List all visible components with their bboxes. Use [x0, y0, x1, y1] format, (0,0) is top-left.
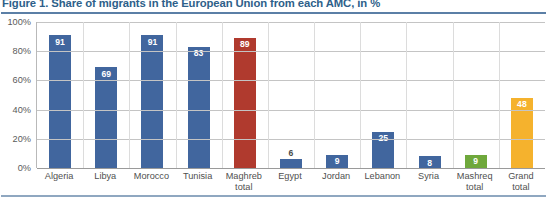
- figure-container: Figure 1. Share of migrants in the Europ…: [0, 0, 547, 197]
- x-axis-tick-label: Mashreqtotal: [452, 171, 498, 193]
- bar-slot: 89: [222, 22, 268, 168]
- bar[interactable]: [188, 47, 210, 168]
- x-axis-labels: AlgeriaLibyaMoroccoTunisiaMaghrebtotalEg…: [36, 171, 544, 197]
- x-axis-tick-label-line: Mashreq: [452, 171, 498, 182]
- y-axis-tick-label: 0%: [18, 163, 31, 173]
- bar-slot: 69: [83, 22, 129, 168]
- y-axis-tick-label: 40%: [13, 105, 31, 115]
- bar-value-label: 91: [148, 38, 158, 47]
- bar-value-label: 48: [517, 100, 527, 109]
- x-axis-tick-label: Jordan: [313, 171, 359, 182]
- figure-title: Figure 1. Share of migrants in the Europ…: [2, 0, 545, 11]
- category-separator: [406, 22, 407, 168]
- bar-series: 916991838969258948: [37, 22, 545, 168]
- x-axis-tick-label: Tunisia: [175, 171, 221, 182]
- x-axis-baseline: [37, 168, 545, 169]
- bar-slot: 48: [499, 22, 545, 168]
- y-axis-tick-label: 100%: [8, 17, 32, 27]
- bar[interactable]: [95, 67, 117, 168]
- category-separator: [222, 22, 223, 168]
- x-axis-tick-label: Egypt: [267, 171, 313, 182]
- bar-slot: 91: [129, 22, 175, 168]
- bar[interactable]: [234, 38, 256, 168]
- x-axis-tick-label: Maghrebtotal: [221, 171, 267, 193]
- title-divider: [1, 12, 546, 14]
- x-axis-tick-label-line: Grand: [498, 171, 544, 182]
- bar-slot: 83: [176, 22, 222, 168]
- bar-value-label: 6: [289, 149, 294, 158]
- footer-divider: [1, 195, 546, 197]
- bar-slot: 9: [453, 22, 499, 168]
- x-axis-tick-label: Syria: [405, 171, 451, 182]
- bar-value-label: 69: [101, 70, 111, 79]
- x-axis-tick-label-line: total: [452, 182, 498, 193]
- gridline: [37, 80, 545, 81]
- y-axis-tick-label: 60%: [13, 75, 31, 85]
- x-axis-tick-label: Morocco: [128, 171, 174, 182]
- x-axis-tick-label-line: Jordan: [313, 171, 359, 182]
- bar[interactable]: [280, 159, 302, 168]
- bar-slot: 25: [360, 22, 406, 168]
- x-axis-tick-label-line: Lebanon: [359, 171, 405, 182]
- bar-value-label: 9: [335, 157, 340, 166]
- bar-slot: 8: [406, 22, 452, 168]
- x-axis-tick-label-line: Syria: [405, 171, 451, 182]
- x-axis-tick-label-line: total: [221, 182, 267, 193]
- gridline: [37, 51, 545, 52]
- y-axis-tick-label: 20%: [13, 134, 31, 144]
- chart-grid: 916991838969258948: [36, 22, 545, 168]
- gridline: [37, 110, 545, 111]
- x-axis-tick-label-line: Tunisia: [175, 171, 221, 182]
- category-separator: [83, 22, 84, 168]
- gridline: [37, 139, 545, 140]
- bar-slot: 9: [314, 22, 360, 168]
- bar-value-label: 91: [55, 38, 65, 47]
- category-separator: [360, 22, 361, 168]
- category-separator: [129, 22, 130, 168]
- x-axis-tick-label: Algeria: [36, 171, 82, 182]
- x-axis-tick-label-line: total: [498, 182, 544, 193]
- category-separator: [176, 22, 177, 168]
- bar-value-label: 9: [473, 157, 478, 166]
- x-axis-tick-label-line: Morocco: [128, 171, 174, 182]
- x-axis-tick-label-line: Maghreb: [221, 171, 267, 182]
- bar-value-label: 8: [427, 159, 432, 168]
- bar-slot: 6: [268, 22, 314, 168]
- bar[interactable]: [141, 35, 163, 168]
- bar[interactable]: [49, 35, 71, 168]
- x-axis-tick-label: Lebanon: [359, 171, 405, 182]
- x-axis-tick-label-line: Egypt: [267, 171, 313, 182]
- x-axis-tick-label-line: Libya: [82, 171, 128, 182]
- category-separator: [268, 22, 269, 168]
- bar-value-label: 89: [240, 40, 250, 49]
- category-separator: [499, 22, 500, 168]
- gridline: [37, 22, 545, 23]
- bar-slot: 91: [37, 22, 83, 168]
- x-axis-tick-label: Grandtotal: [498, 171, 544, 193]
- x-axis-tick-label-line: Algeria: [36, 171, 82, 182]
- y-axis-tick-label: 80%: [13, 46, 31, 56]
- category-separator: [314, 22, 315, 168]
- x-axis-tick-label: Libya: [82, 171, 128, 182]
- chart-plot-area: 0%20%40%60%80%100% 916991838969258948 Al…: [0, 16, 547, 197]
- category-separator: [453, 22, 454, 168]
- y-axis: 0%20%40%60%80%100%: [0, 16, 34, 197]
